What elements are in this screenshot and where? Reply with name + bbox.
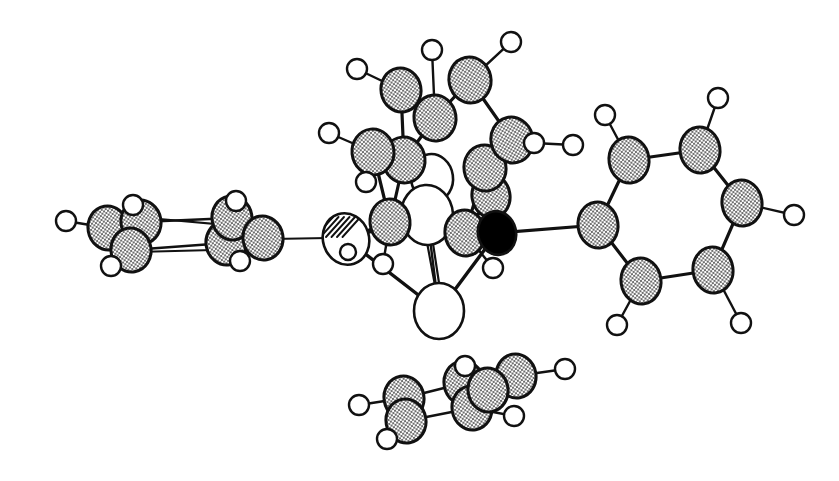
atom-hydrogen-H32	[377, 429, 397, 449]
hydrogen-sphere	[563, 135, 583, 155]
metal_hatched-sphere	[316, 207, 376, 271]
atom-hydrogen-H15	[607, 315, 627, 335]
hydrogen-sphere	[226, 191, 246, 211]
hydrogen-sphere	[349, 395, 369, 415]
hydrogen-sphere	[483, 258, 503, 278]
atom-hydrogen-H4	[319, 123, 339, 143]
atom-carbon-C12	[606, 134, 652, 185]
atom-hydrogen-H3	[501, 32, 521, 52]
atom-hydrogen-H25	[226, 191, 246, 211]
hydrogen-sphere	[347, 59, 367, 79]
atom-carbon-C16	[618, 255, 664, 306]
atom-hydrogen-H35	[555, 359, 575, 379]
atom-hydrogen-H14	[731, 313, 751, 333]
atom-hydrogen-H9	[483, 258, 503, 278]
atom-hydrogen-H24	[230, 251, 250, 271]
hydrogen-sphere	[784, 205, 804, 225]
atom-hydrogen-H13	[784, 205, 804, 225]
molecular-structure-figure	[0, 0, 839, 481]
atom-hydrogen-H34	[504, 406, 524, 426]
atom-hydrogen-H2	[422, 40, 442, 60]
atom-hydrogen-H8	[373, 254, 393, 274]
hydrogen-sphere	[555, 359, 575, 379]
hydrogen-sphere	[607, 315, 627, 335]
hydrogen-sphere	[101, 256, 121, 276]
atom-metal_open-M4	[414, 283, 464, 339]
hydrogen-sphere	[56, 211, 76, 231]
atom-hydrogen-H31	[349, 395, 369, 415]
hydrogen-sphere	[501, 32, 521, 52]
hydrogen-sphere	[123, 195, 143, 215]
carbon-sphere	[606, 134, 652, 185]
atom-hydrogen-H11	[595, 105, 615, 125]
atom-hydrogen-H6	[524, 133, 544, 153]
hydrogen-sphere	[230, 251, 250, 271]
hydrogen-sphere	[377, 429, 397, 449]
atom-hydrogen-H22	[123, 195, 143, 215]
atom-hydrogen-H1	[347, 59, 367, 79]
atom-hydrogen-H21	[56, 211, 76, 231]
hydrogen-sphere	[422, 40, 442, 60]
metal_open-sphere	[414, 283, 464, 339]
hydrogen-sphere	[595, 105, 615, 125]
hydrogen-sphere	[731, 313, 751, 333]
carbon-sphere	[575, 199, 621, 250]
atom-carbon-C11	[575, 199, 621, 250]
hatched-metal-lobe	[340, 244, 356, 260]
hydrogen-sphere	[504, 406, 524, 426]
atom-hydrogen-H23	[101, 256, 121, 276]
atom-hydrogen-H5	[356, 172, 376, 192]
hydrogen-sphere	[708, 88, 728, 108]
hydrogen-sphere	[455, 356, 475, 376]
atom-hydrogen-H12	[708, 88, 728, 108]
atom-hydrogen-H33	[455, 356, 475, 376]
hydrogen-sphere	[319, 123, 339, 143]
atom-carbon-C15	[690, 244, 736, 295]
carbon-sphere	[618, 255, 664, 306]
structure-canvas	[0, 0, 839, 481]
atom-layer	[56, 32, 804, 449]
atom-hydrogen-H7	[563, 135, 583, 155]
hydrogen-sphere	[524, 133, 544, 153]
hydrogen-sphere	[356, 172, 376, 192]
carbon-sphere	[690, 244, 736, 295]
hydrogen-sphere	[373, 254, 393, 274]
